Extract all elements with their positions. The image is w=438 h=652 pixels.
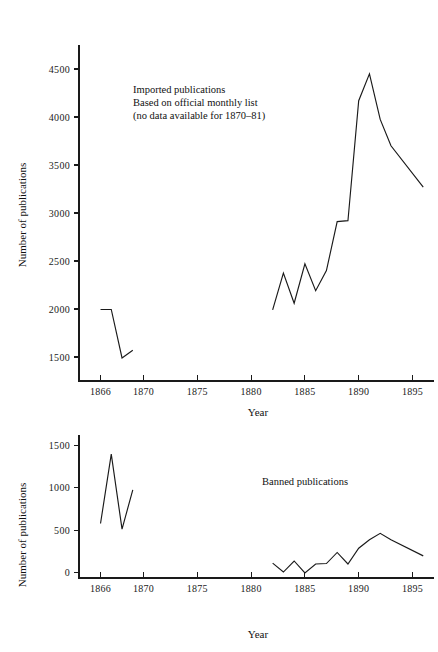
- x-tick-label: 1866: [90, 583, 111, 594]
- chart-page: 1500200025003000350040004500 18661870187…: [0, 0, 438, 652]
- x-tick-label: 1880: [241, 583, 262, 594]
- x-axis-title: Year: [248, 406, 269, 418]
- y-axis-title: Number of publications: [16, 163, 28, 267]
- x-tick-label: 1885: [294, 386, 315, 397]
- chart-banned-publications: 050010001500 186618701875188018851890189…: [0, 420, 438, 652]
- axis-lines: [79, 435, 434, 578]
- x-tick-label: 1866: [90, 386, 111, 397]
- x-tick-label: 1870: [133, 583, 154, 594]
- annotation-line-2: Based on official monthly list: [133, 97, 258, 108]
- y-tick-label: 4500: [49, 64, 70, 75]
- x-tick-group: 1866187018751880188518901895: [90, 375, 423, 397]
- x-tick-group: 1866187018751880188518901895: [90, 572, 423, 594]
- y-tick-label: 2500: [49, 256, 70, 267]
- y-tick-label: 3000: [49, 208, 70, 219]
- annotation-line-1: Banned publications: [262, 476, 348, 487]
- x-tick-label: 1890: [348, 386, 369, 397]
- axis-lines: [79, 45, 434, 381]
- y-tick-label: 3500: [49, 160, 70, 171]
- x-tick-label: 1880: [241, 386, 262, 397]
- x-tick-label: 1875: [187, 386, 208, 397]
- x-tick-label: 1875: [187, 583, 208, 594]
- y-tick-label: 2000: [49, 304, 70, 315]
- data-series-line: [273, 74, 424, 310]
- y-tick-label: 1500: [49, 440, 70, 451]
- y-tick-label: 4000: [49, 112, 70, 123]
- y-tick-label: 1500: [49, 352, 70, 363]
- y-tick-label: 1000: [49, 482, 70, 493]
- x-tick-label: 1895: [402, 386, 423, 397]
- y-axis-title: Number of publications: [16, 483, 28, 587]
- x-axis-title: Year: [248, 628, 269, 640]
- imported-publications-plot: 1500200025003000350040004500 18661870187…: [0, 0, 438, 430]
- chart-imported-publications: 1500200025003000350040004500 18661870187…: [0, 0, 438, 430]
- x-tick-label: 1870: [133, 386, 154, 397]
- data-series-line: [101, 454, 133, 529]
- banned-publications-plot: 050010001500 186618701875188018851890189…: [0, 420, 438, 652]
- y-tick-group: 050010001500: [49, 440, 79, 579]
- y-tick-label: 500: [54, 525, 70, 536]
- data-series-line: [101, 309, 133, 357]
- data-series-line: [273, 533, 424, 573]
- x-tick-label: 1890: [348, 583, 369, 594]
- x-tick-label: 1885: [294, 583, 315, 594]
- annotation-line-3: (no data available for 1870–81): [133, 110, 266, 122]
- y-tick-group: 1500200025003000350040004500: [49, 64, 79, 363]
- series-group: [101, 454, 424, 573]
- x-tick-label: 1895: [402, 583, 423, 594]
- y-tick-label: 0: [65, 567, 70, 578]
- annotation-line-1: Imported publications: [133, 84, 225, 95]
